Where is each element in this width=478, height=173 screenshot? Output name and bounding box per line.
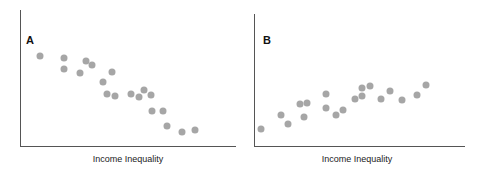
data-point (399, 97, 406, 104)
data-point (414, 92, 421, 99)
chart-a-x-axis (20, 146, 236, 147)
chart-b-y-axis (254, 14, 255, 146)
data-point (304, 100, 311, 107)
data-point (323, 91, 330, 98)
data-point (323, 105, 330, 112)
data-point (61, 55, 68, 62)
data-point (367, 83, 374, 90)
data-point (297, 101, 304, 108)
data-point (333, 112, 340, 119)
data-point (359, 85, 366, 92)
data-point (61, 66, 68, 73)
data-point (301, 114, 308, 121)
data-point (387, 88, 394, 95)
data-point (179, 129, 186, 136)
data-point (100, 79, 107, 86)
data-point (141, 87, 148, 94)
chart-a-panel-label: A (26, 34, 34, 46)
data-point (37, 53, 44, 60)
data-point (128, 91, 135, 98)
chart-a-y-axis (20, 10, 21, 146)
data-point (352, 96, 359, 103)
chart-b-panel-label: B (263, 34, 271, 46)
data-point (89, 62, 96, 69)
data-point (160, 108, 167, 115)
data-point (148, 92, 155, 99)
chart-a-x-label: Income Inequality (28, 154, 228, 164)
data-point (285, 121, 292, 128)
data-point (423, 82, 430, 89)
chart-b-x-axis (254, 146, 465, 147)
data-point (258, 126, 265, 133)
data-point (77, 70, 84, 77)
chart-b-x-label: Income Inequality (257, 154, 457, 164)
data-point (136, 94, 143, 101)
data-point (340, 107, 347, 114)
data-point (112, 93, 119, 100)
data-point (149, 108, 156, 115)
data-point (164, 123, 171, 130)
data-point (192, 127, 199, 134)
data-point (278, 112, 285, 119)
data-point (104, 91, 111, 98)
data-point (378, 96, 385, 103)
data-point (359, 93, 366, 100)
data-point (109, 69, 116, 76)
